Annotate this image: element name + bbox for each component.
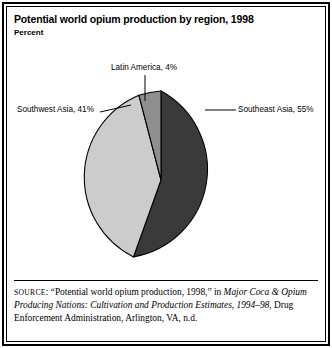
source-title-part1: Major Coca & bbox=[224, 287, 279, 297]
figure-container: Potential world opium production by regi… bbox=[0, 0, 332, 348]
source-text-part1: : “Potential world opium production, 199… bbox=[46, 287, 224, 297]
pie-label-southeast-asia: Southeast Asia, 55% bbox=[238, 105, 314, 115]
source-divider bbox=[14, 280, 318, 281]
pie-label-southwest-asia: Southwest Asia, 41% bbox=[17, 105, 94, 115]
source-prefix: SOURCE bbox=[14, 288, 46, 297]
source-title-part3: 1994–98 bbox=[236, 300, 269, 310]
source-note: SOURCE: “Potential world opium productio… bbox=[14, 286, 318, 324]
pie-label-latin-america: Latin America, 4% bbox=[111, 63, 177, 73]
